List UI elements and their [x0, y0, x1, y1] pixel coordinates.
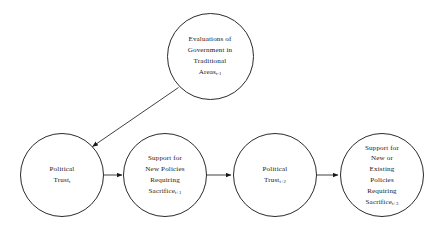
node-label-support-new-or-existing: Support forNew orExistingPoliciesRequiri…: [359, 143, 405, 208]
node-political-trust-t[interactable]: PoliticalTrustt: [20, 133, 104, 217]
node-label-political-trust-t: PoliticalTrustt: [44, 164, 81, 186]
node-label-evaluations: Evaluations ofGovernment inTraditionalAr…: [182, 34, 239, 77]
node-evaluations-of-government-in-traditional-areas[interactable]: Evaluations ofGovernment inTraditionalAr…: [167, 13, 254, 100]
node-label-political-trust-t2: PoliticalTrustt+2: [257, 164, 294, 186]
path-diagram-canvas: Evaluations ofGovernment inTraditionalAr…: [0, 0, 431, 229]
node-support-for-new-policies-requiring-sacrifice[interactable]: Support forNew PoliciesRequiringSacrific…: [123, 133, 207, 217]
node-support-for-new-or-existing-policies-requiring-sacrifice[interactable]: Support forNew orExistingPoliciesRequiri…: [340, 133, 424, 217]
node-label-support-new-policies: Support forNew PoliciesRequiringSacrific…: [139, 153, 190, 196]
node-political-trust-t2[interactable]: PoliticalTrustt+2: [233, 133, 317, 217]
